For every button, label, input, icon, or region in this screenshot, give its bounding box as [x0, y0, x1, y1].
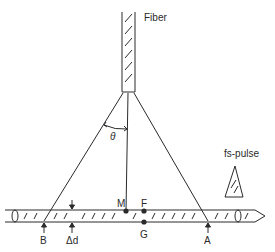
beam-entry-ellipse: [12, 210, 18, 222]
beam-exit-ellipse: [235, 210, 241, 222]
point-g-dot: [141, 219, 146, 224]
fiber: [122, 12, 135, 92]
point-b-label: B: [40, 235, 47, 246]
theta-arc: [104, 122, 127, 131]
delta-d-label: Δd: [66, 235, 78, 246]
point-a-arrow: [206, 223, 211, 233]
point-f-label: F: [141, 198, 147, 209]
point-b-arrow: [42, 223, 47, 233]
point-m-label: M: [117, 198, 125, 209]
fiber-pulse-diagram: Fiber θ fs-pulse M F G B Δd A: [0, 0, 275, 252]
delta-d-arrows: [70, 200, 75, 233]
fs-pulse-icon: [225, 166, 243, 197]
light-cone: [44, 93, 208, 221]
theta-label: θ: [110, 131, 116, 142]
point-a-label: A: [204, 235, 211, 246]
point-g-label: G: [140, 229, 148, 240]
center-axis-line: [126, 93, 128, 211]
fs-pulse-label: fs-pulse: [224, 148, 259, 159]
point-f-dot: [141, 208, 146, 213]
point-m-dot: [123, 208, 128, 213]
fiber-label: Fiber: [144, 12, 167, 23]
